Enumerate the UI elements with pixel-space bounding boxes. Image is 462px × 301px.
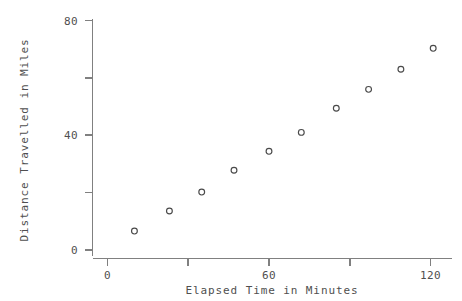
x-tick-label-120: 120 (420, 269, 441, 282)
data-point (199, 189, 205, 195)
data-point (333, 105, 339, 111)
data-point (266, 148, 272, 154)
data-point-group (132, 45, 437, 234)
data-point (231, 167, 237, 173)
data-point (298, 129, 304, 135)
data-point (398, 66, 404, 72)
plot-canvas: 80 40 0 0 60 120 Elapsed Time in Minutes… (0, 0, 462, 301)
y-tick-label-40: 40 (64, 129, 78, 142)
y-tick-label-0: 0 (71, 244, 78, 257)
y-tick-label-80: 80 (64, 15, 78, 28)
y-axis-title: Distance Travelled in Miles (18, 38, 31, 241)
data-point (430, 45, 436, 51)
x-tick-label-0: 0 (104, 269, 111, 282)
scatter-plot-figure: 80 40 0 0 60 120 Elapsed Time in Minutes… (0, 0, 462, 301)
data-point (366, 86, 372, 92)
data-point (132, 228, 138, 234)
data-point (167, 208, 173, 214)
x-tick-label-60: 60 (262, 269, 276, 282)
x-axis-title: Elapsed Time in Minutes (185, 284, 358, 297)
